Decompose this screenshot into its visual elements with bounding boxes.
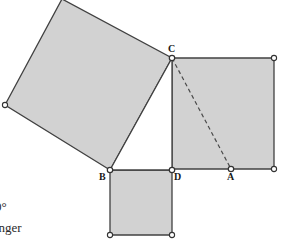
vertex-marker-right-square-br [271,166,276,171]
point-label-B: B [99,172,106,182]
vertex-marker-right-square-tr [271,55,276,60]
square-on-leg-CD [172,58,274,169]
vertex-marker-hyp-left [2,102,7,107]
geometry-figure-root: C B D A 0° onger [0,0,281,242]
clipped-longer-text: onger [0,221,22,234]
vertex-marker-bottom-square-bl [107,232,112,237]
square-on-leg-BD [110,170,172,235]
clipped-angle-text: 0° [0,200,7,213]
point-label-C: C [168,44,175,54]
vertex-marker-point-C [169,55,174,60]
point-label-A: A [227,172,234,182]
vertex-marker-bottom-square-br [169,232,174,237]
point-label-D: D [174,172,181,182]
vertex-marker-point-B [107,167,112,172]
geometry-canvas [0,0,281,242]
